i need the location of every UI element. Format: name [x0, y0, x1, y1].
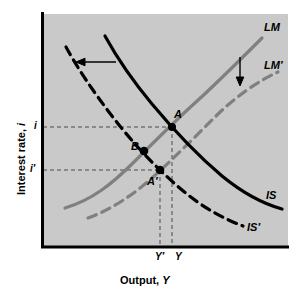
curve-label-is: IS [266, 190, 276, 201]
point-marker-a-prime [156, 166, 165, 175]
x-axis-title: Output, Y [120, 275, 170, 286]
point-label-b: B [131, 141, 139, 152]
point-label-a: A [174, 109, 182, 120]
y-axis-title-variable: i [15, 123, 27, 126]
curve-label-is-prime: IS′ [247, 222, 260, 233]
curve-label-lm-prime: LM′ [264, 60, 283, 71]
chart-canvas [0, 0, 305, 294]
y-axis-title: Interest rate, i [16, 123, 27, 195]
point-marker-a [168, 123, 176, 131]
curve-label-lm: LM [264, 22, 280, 33]
x-axis-title-variable: Y [162, 274, 169, 286]
x-tick-label-Y: Y [175, 252, 182, 262]
x-tick-label-Y-prime: Y′ [155, 252, 164, 262]
y-axis-title-text: Interest rate, [15, 126, 27, 195]
point-marker-b [140, 147, 149, 156]
y-tick-label-i: i [34, 121, 37, 131]
y-tick-label-i-prime: i′ [30, 164, 35, 174]
x-axis-title-text: Output, [120, 274, 162, 286]
point-label-a-prime: A′ [147, 176, 158, 187]
is-lm-diagram: LM LM′ IS IS′ A B A′ i i′ Y′ Y Interest … [0, 0, 305, 294]
